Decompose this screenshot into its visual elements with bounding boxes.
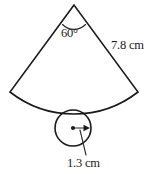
angle-label: 60° — [61, 27, 78, 40]
sector-outline — [10, 5, 138, 114]
radius-arrowhead-icon — [84, 125, 91, 131]
sector-radius-label: 7.8 cm — [111, 39, 144, 52]
circle-radius-label: 1.3 cm — [67, 157, 100, 170]
radius-leader-line — [80, 130, 86, 155]
geometry-figure: 60° 7.8 cm 1.3 cm — [0, 0, 148, 174]
